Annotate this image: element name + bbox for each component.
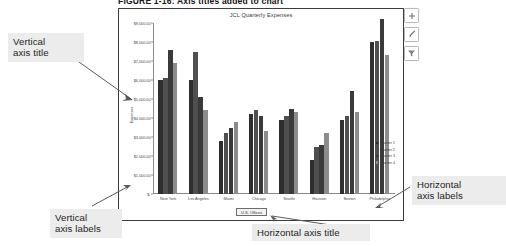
y-tick-label: $7,000.00 <box>134 58 151 63</box>
callout-horizontal-axis-title: Horizontal axis title <box>252 224 370 241</box>
legend-swatch <box>376 142 379 145</box>
bar[interactable] <box>380 19 384 194</box>
legend-item[interactable]: Quarter 3 <box>376 154 395 158</box>
bar[interactable] <box>324 133 328 194</box>
callout-horizontal-axis-labels: Horizontal axis labels <box>412 176 506 205</box>
y-tick-label: $9,000.00 <box>134 21 151 26</box>
funnel-icon <box>407 49 416 58</box>
bar[interactable] <box>294 112 298 194</box>
bar[interactable] <box>310 160 314 194</box>
bar[interactable] <box>355 112 359 194</box>
legend-swatch <box>376 148 379 151</box>
x-tick-label: New York <box>160 197 176 201</box>
bar-group[interactable]: Miami <box>214 23 244 194</box>
chart-legend[interactable]: Quarter 1Quarter 2Quarter 3Quarter 4 <box>376 141 395 165</box>
bar-series-container[interactable]: New YorkLos AngelesMiamiChicagoSeattleHo… <box>153 23 395 194</box>
bar[interactable] <box>340 120 344 194</box>
legend-swatch <box>376 161 379 164</box>
bar[interactable] <box>284 116 288 194</box>
x-tick-label: Miami <box>224 197 234 201</box>
bar[interactable] <box>158 80 162 194</box>
plot-area[interactable]: $9,000.00 $8,000.00 $7,000.00 $6,000.00 … <box>153 23 395 194</box>
bar[interactable] <box>259 116 263 194</box>
bar-group[interactable]: New York <box>153 23 183 194</box>
bar-group[interactable]: Seattle <box>274 23 304 194</box>
bar[interactable] <box>350 91 354 194</box>
bar[interactable] <box>385 55 389 194</box>
figure-caption-text: Axis titles added to chart <box>177 0 283 6</box>
legend-item[interactable]: Quarter 2 <box>376 148 395 152</box>
y-tick-label: $- <box>147 192 150 197</box>
y-tick-label: $6,000.00 <box>134 77 151 82</box>
y-tick-label: $4,000.00 <box>134 115 151 120</box>
chart-styles-button[interactable] <box>404 27 419 42</box>
bar[interactable] <box>168 50 172 194</box>
legend-item[interactable]: Quarter 4 <box>376 161 395 165</box>
bar[interactable] <box>279 120 283 194</box>
brush-icon <box>407 30 416 39</box>
plus-icon <box>408 12 416 20</box>
y-tick-label: $3,000.00 <box>134 134 151 139</box>
bar[interactable] <box>189 80 193 194</box>
legend-label: Quarter 3 <box>380 154 395 158</box>
bar[interactable] <box>234 122 238 194</box>
figure-number: FIGURE 1-16: <box>118 0 175 6</box>
bar[interactable] <box>249 114 253 194</box>
bar-group[interactable]: Houston <box>304 23 334 194</box>
bar[interactable] <box>375 41 379 194</box>
chart-title[interactable]: JCL Quarterly Expenses <box>119 12 403 18</box>
bar[interactable] <box>173 63 177 194</box>
bar[interactable] <box>229 128 233 195</box>
bar-group[interactable]: Los Angeles <box>183 23 213 194</box>
bar[interactable] <box>264 131 268 194</box>
x-tick-label: Houston <box>312 197 326 201</box>
excel-chart-object[interactable]: JCL Quarterly Expenses Expenses $9,000.0… <box>118 8 404 221</box>
x-tick-label: Philadelphia <box>370 197 391 201</box>
chart-filters-button[interactable] <box>404 46 419 61</box>
bar[interactable] <box>198 97 202 194</box>
bar[interactable] <box>289 109 293 195</box>
y-tick-label: $2,000.00 <box>134 153 151 158</box>
y-tick-label: $1,000.00 <box>134 172 151 177</box>
horizontal-axis-title[interactable]: U.S. Offices <box>236 208 267 216</box>
legend-swatch <box>376 155 379 158</box>
callout-vertical-axis-labels: Vertical axis labels <box>50 209 122 238</box>
callout-vertical-axis-title: Vertical axis title <box>8 33 84 62</box>
bar[interactable] <box>314 147 318 195</box>
y-tick-label: $8,000.00 <box>134 39 151 44</box>
bar[interactable] <box>319 145 323 194</box>
bar[interactable] <box>203 110 207 194</box>
chart-elements-button[interactable] <box>404 8 419 23</box>
bar[interactable] <box>224 133 228 194</box>
bar[interactable] <box>254 110 258 194</box>
legend-item[interactable]: Quarter 1 <box>376 141 395 145</box>
legend-label: Quarter 2 <box>380 148 395 152</box>
x-tick-label: Boston <box>344 197 356 201</box>
bar[interactable] <box>163 78 167 194</box>
bar-group[interactable]: Chicago <box>244 23 274 194</box>
bar[interactable] <box>193 52 197 195</box>
legend-label: Quarter 4 <box>380 161 395 165</box>
x-tick-label: Los Angeles <box>188 197 209 201</box>
chart-buttons-group[interactable] <box>404 8 419 61</box>
bar[interactable] <box>370 42 374 194</box>
y-tick-label: $5,000.00 <box>134 96 151 101</box>
bar-group[interactable]: Philadelphia <box>365 23 395 194</box>
figure-caption: FIGURE 1-16: Axis titles added to chart <box>118 0 283 6</box>
bar-group[interactable]: Boston <box>335 23 365 194</box>
x-tick-label: Seattle <box>283 197 295 201</box>
bar[interactable] <box>219 141 223 194</box>
bar[interactable] <box>345 116 349 194</box>
legend-label: Quarter 1 <box>380 141 395 145</box>
x-tick-label: Chicago <box>252 197 266 201</box>
